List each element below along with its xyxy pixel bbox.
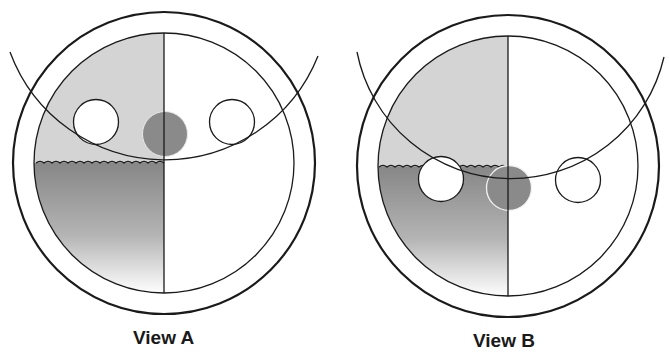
gray-ball <box>487 166 532 211</box>
caption-view-b: View B <box>473 330 535 352</box>
view-b <box>357 15 664 317</box>
view-a <box>10 12 318 314</box>
white-ball-left <box>419 157 464 202</box>
liquid-region <box>30 163 165 298</box>
figure-canvas <box>0 0 669 360</box>
white-ball-left <box>74 100 119 145</box>
gray-ball <box>143 112 188 157</box>
caption-view-a: View A <box>133 327 194 349</box>
vapor-region <box>374 33 509 168</box>
left-half-fill <box>30 30 165 298</box>
